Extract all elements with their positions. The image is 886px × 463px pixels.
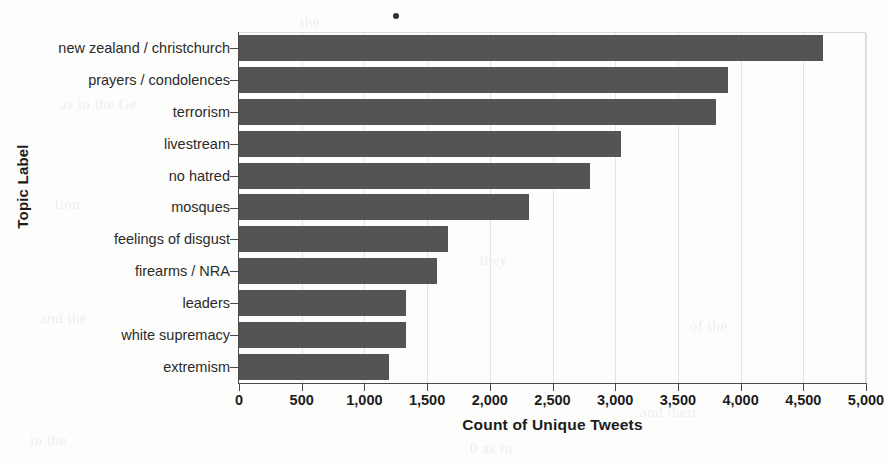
scan-speck-icon xyxy=(393,13,399,19)
y-axis-tick-label: new zealand / christchurch xyxy=(58,40,230,56)
y-axis-tick xyxy=(230,48,238,49)
y-axis-tick-label: livestream xyxy=(164,136,230,152)
y-axis-tick xyxy=(230,208,238,209)
y-axis-labels: new zealand / christchurchprayers / cond… xyxy=(0,32,230,383)
bar[interactable] xyxy=(239,194,529,220)
y-axis-tick xyxy=(230,144,238,145)
bar-row[interactable] xyxy=(239,223,866,255)
y-axis-label-row: leaders xyxy=(0,287,230,319)
x-axis-tick xyxy=(364,384,365,391)
x-axis-tick xyxy=(678,384,679,391)
x-axis-tick-label: 2,000 xyxy=(472,392,508,408)
x-axis-tick-label: 5,000 xyxy=(848,392,884,408)
y-axis-tick xyxy=(230,303,238,304)
y-axis-tick xyxy=(230,239,238,240)
bar-row[interactable] xyxy=(239,96,866,128)
y-axis-title: Topic Label xyxy=(14,127,31,247)
y-axis-tick xyxy=(230,176,238,177)
y-axis-label-row: mosques xyxy=(0,191,230,223)
x-axis-tick-label: 0 xyxy=(235,392,243,408)
x-axis-tick-label: 1,500 xyxy=(409,392,445,408)
y-axis-label-row: no hatred xyxy=(0,160,230,192)
x-axis-tick xyxy=(490,384,491,391)
y-axis-tick-label: mosques xyxy=(171,199,230,215)
x-axis-tick xyxy=(866,384,867,391)
x-axis-tick xyxy=(239,384,240,391)
x-axis-tick-label: 2,500 xyxy=(534,392,570,408)
y-axis-label-row: terrorism xyxy=(0,96,230,128)
bleed-artifact: 0 as in xyxy=(470,440,513,457)
bar[interactable] xyxy=(239,290,406,316)
x-axis-tick-label: 4,500 xyxy=(785,392,821,408)
x-axis-tick xyxy=(302,384,303,391)
x-axis-tick-label: 4,000 xyxy=(722,392,758,408)
y-axis-tick xyxy=(230,367,238,368)
x-axis-tick xyxy=(553,384,554,391)
y-axis-label-row: feelings of disgust xyxy=(0,223,230,255)
bleed-artifact: the xyxy=(300,14,320,31)
x-axis-tick-label: 3,000 xyxy=(597,392,633,408)
bleed-artifact: in the xyxy=(30,432,67,449)
y-axis-label-row: prayers / condolences xyxy=(0,64,230,96)
x-axis-tick xyxy=(615,384,616,391)
bar-row[interactable] xyxy=(239,160,866,192)
x-axis-title: Count of Unique Tweets xyxy=(239,416,866,434)
bar-row[interactable] xyxy=(239,64,866,96)
x-axis-tick xyxy=(741,384,742,391)
gridline xyxy=(866,33,867,383)
bar-series xyxy=(239,32,866,383)
bar-row[interactable] xyxy=(239,319,866,351)
x-axis-tick-label: 500 xyxy=(290,392,314,408)
y-axis-label-row: livestream xyxy=(0,128,230,160)
x-axis-tick-label: 3,500 xyxy=(660,392,696,408)
bar[interactable] xyxy=(239,258,437,284)
y-axis-tick xyxy=(230,112,238,113)
y-axis-tick-label: no hatred xyxy=(169,168,230,184)
bar-row[interactable] xyxy=(239,32,866,64)
bar[interactable] xyxy=(239,99,716,125)
y-axis-tick-label: firearms / NRA xyxy=(135,263,230,279)
y-axis-label-row: firearms / NRA xyxy=(0,255,230,287)
y-axis-label-row: extremism xyxy=(0,351,230,383)
bar-row[interactable] xyxy=(239,191,866,223)
bar-row[interactable] xyxy=(239,287,866,319)
x-axis-tick xyxy=(803,384,804,391)
bar-row[interactable] xyxy=(239,128,866,160)
y-axis-label-row: new zealand / christchurch xyxy=(0,32,230,64)
y-axis-tick-label: extremism xyxy=(163,359,230,375)
bar[interactable] xyxy=(239,35,823,61)
x-axis-tick xyxy=(427,384,428,391)
bar[interactable] xyxy=(239,131,621,157)
bar-row[interactable] xyxy=(239,351,866,383)
bar[interactable] xyxy=(239,226,448,252)
chart-page: as in the Ge the is of tion they and the… xyxy=(0,0,886,463)
bar[interactable] xyxy=(239,354,389,380)
bar[interactable] xyxy=(239,67,728,93)
y-axis-tick xyxy=(230,271,238,272)
y-axis-tick-label: leaders xyxy=(182,295,230,311)
y-axis-tick-label: terrorism xyxy=(173,104,230,120)
y-axis-label-row: white supremacy xyxy=(0,319,230,351)
bar[interactable] xyxy=(239,322,406,348)
bar[interactable] xyxy=(239,163,590,189)
bar-row[interactable] xyxy=(239,255,866,287)
y-axis-tick-label: white supremacy xyxy=(121,327,230,343)
y-axis-tick xyxy=(230,335,238,336)
x-axis-tick-label: 1,000 xyxy=(346,392,382,408)
y-axis-tick xyxy=(230,80,238,81)
y-axis-tick-label: feelings of disgust xyxy=(114,231,230,247)
y-axis-tick-label: prayers / condolences xyxy=(88,72,230,88)
